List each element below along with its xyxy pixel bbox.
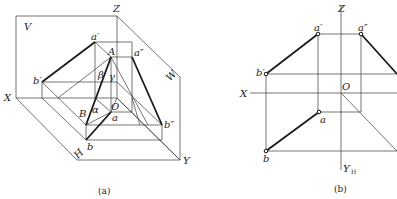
- label-a: a: [320, 114, 326, 125]
- b-projectors: [42, 82, 162, 140]
- label-v: V: [24, 21, 33, 32]
- label-a: a: [112, 112, 118, 123]
- label-b-prime: b′: [256, 67, 265, 78]
- line-a-dprime-b-dprime: [361, 34, 397, 74]
- caption-a: (a): [98, 186, 110, 196]
- label-a-dprime: a″: [358, 22, 368, 33]
- label-o: O: [342, 81, 350, 92]
- label-x: X: [3, 92, 12, 103]
- w-plane: [117, 16, 180, 160]
- line-ab: [266, 112, 319, 151]
- diagonal-45: [341, 93, 397, 151]
- figure-b-orthographic: Z X O Y H a′ a″ b′ a b (b): [239, 3, 397, 194]
- label-b: b: [263, 153, 269, 164]
- label-o: O: [111, 101, 119, 112]
- label-b: b: [87, 141, 93, 152]
- label-alpha: α: [92, 104, 99, 115]
- label-gamma: γ: [109, 71, 115, 82]
- label-y-sub: H: [351, 168, 356, 175]
- label-h: H: [71, 147, 86, 162]
- label-w: W: [164, 68, 180, 84]
- label-B: B: [78, 108, 86, 119]
- label-b-prime: b′: [33, 75, 42, 86]
- label-z: Z: [337, 3, 346, 14]
- point-b-prime: [264, 72, 268, 76]
- label-beta: β: [97, 69, 104, 80]
- label-a-prime: a′: [91, 31, 100, 42]
- label-y: Y: [343, 163, 351, 174]
- label-b-dprime: b″: [164, 119, 174, 130]
- line-a-dprime-b-dprime: [132, 57, 162, 125]
- label-z: Z: [112, 3, 121, 14]
- caption-b: (b): [334, 184, 347, 194]
- label-a-dprime: a″: [134, 47, 144, 58]
- projection-diagrams: V Z X H W Y O a′ b′ A a″ b″ B b a β γ α …: [0, 0, 397, 199]
- line-a-prime-b-prime: [266, 34, 318, 74]
- line-a-prime-b-prime: [42, 42, 95, 82]
- label-x: X: [239, 88, 248, 99]
- label-a-prime: a′: [314, 22, 323, 33]
- label-y: Y: [183, 155, 191, 166]
- label-A: A: [107, 46, 115, 57]
- figure-a-axonometric: V Z X H W Y O a′ b′ A a″ b″ B b a β γ α …: [3, 3, 191, 196]
